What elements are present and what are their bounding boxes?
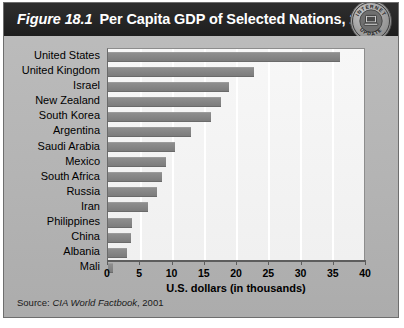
x-axis-ticks (107, 260, 365, 266)
source-note: Source: CIA World Factbook, 2001 (17, 297, 163, 308)
bar-row (108, 245, 364, 260)
source-title: CIA World Factbook (52, 297, 137, 308)
bar (108, 172, 162, 182)
bar-row (108, 124, 364, 139)
figure-number: Figure 18.1 (17, 11, 92, 27)
bar-row (108, 155, 364, 170)
bar (108, 112, 211, 122)
x-axis-tick (333, 260, 334, 265)
bar (108, 52, 340, 62)
bar-row (108, 215, 364, 230)
category-label: Saudi Arabia (4, 139, 105, 154)
page-title: Figure 18.1Per Capita GDP of Selected Na… (17, 11, 381, 27)
bar-row (108, 140, 364, 155)
category-label: Israel (4, 78, 105, 93)
bar (108, 127, 191, 137)
category-label: United Kingdom (4, 63, 105, 78)
x-axis-tick-label: 15 (198, 267, 210, 279)
bar-row (108, 170, 364, 185)
chart: United StatesUnited KingdomIsraelNew Zea… (4, 36, 398, 319)
computer-icon (364, 15, 378, 25)
x-axis-tick-label: 20 (230, 267, 242, 279)
bar-row (108, 64, 364, 79)
bar (108, 82, 229, 92)
figure-title: Per Capita GDP of Selected Nations, 2000 (99, 11, 381, 27)
x-axis-tick (301, 260, 302, 265)
plot-area (107, 48, 365, 260)
category-label: China (4, 229, 105, 244)
bar-row (108, 79, 364, 94)
x-axis-tick-label: 35 (327, 267, 339, 279)
x-axis-tick-label: 5 (136, 267, 142, 279)
bar-row (108, 230, 364, 245)
bar (108, 202, 148, 212)
category-label: Albania (4, 244, 105, 259)
x-axis-tick (268, 260, 269, 265)
category-label: Russia (4, 184, 105, 199)
category-label: South Africa (4, 169, 105, 184)
bar (108, 157, 166, 167)
x-axis-tick-label: 40 (359, 267, 371, 279)
x-axis-tick-label: 0 (104, 267, 110, 279)
bar (108, 67, 254, 77)
category-label: Philippines (4, 214, 105, 229)
x-axis-title: U.S. dollars (in thousands) (107, 282, 365, 294)
category-label: South Korea (4, 108, 105, 123)
figure-panel: Figure 18.1Per Capita GDP of Selected Na… (3, 2, 399, 318)
bar-row (108, 94, 364, 109)
bar (108, 142, 175, 152)
source-year: , 2001 (137, 297, 163, 308)
x-axis-tick-label: 25 (262, 267, 274, 279)
bar-row (108, 200, 364, 215)
category-label: Mexico (4, 154, 105, 169)
source-prefix: Source: (17, 297, 50, 308)
x-axis-tick (236, 260, 237, 265)
x-axis-tick (172, 260, 173, 265)
bar-row (108, 109, 364, 124)
bar (108, 218, 132, 228)
category-label: New Zealand (4, 93, 105, 108)
x-axis-tick (365, 260, 366, 265)
bar (108, 233, 131, 243)
category-label: Iran (4, 199, 105, 214)
figure-title-bar: Figure 18.1Per Capita GDP of Selected Na… (4, 3, 398, 36)
x-axis-tick-label: 30 (295, 267, 307, 279)
category-label: Mali (4, 259, 105, 274)
figure-container: Figure 18.1Per Capita GDP of Selected Na… (0, 0, 404, 328)
category-axis-labels: United StatesUnited KingdomIsraelNew Zea… (4, 48, 105, 274)
bar-row (108, 49, 364, 64)
bar (108, 97, 221, 107)
bar-row (108, 185, 364, 200)
category-label: Argentina (4, 123, 105, 138)
x-axis-tick (139, 260, 140, 265)
x-axis-tick (204, 260, 205, 265)
category-label: United States (4, 48, 105, 63)
internet-update-badge[interactable]: INTERNET UPDATE (350, 3, 392, 36)
bar-series (108, 49, 364, 260)
bar (108, 187, 157, 197)
x-axis-tick-labels: 0510152025303540 (107, 267, 365, 281)
bar (108, 248, 127, 258)
x-axis-tick (107, 260, 108, 265)
x-axis-tick-label: 10 (166, 267, 178, 279)
